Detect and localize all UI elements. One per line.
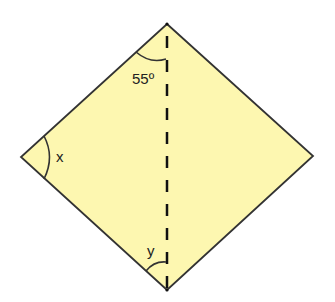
bottom-angle-label: y (147, 242, 155, 259)
top-angle-label: 55º (132, 70, 155, 87)
top-vertex-dot (165, 22, 168, 25)
rhombus-diagram: 55º x y (0, 0, 335, 302)
left-angle-label: x (56, 148, 64, 165)
bottom-vertex-dot (165, 288, 168, 291)
